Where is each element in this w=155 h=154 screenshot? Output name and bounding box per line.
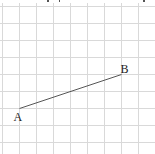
point-label-a: A (14, 110, 23, 124)
point-label-b: B (121, 62, 129, 76)
grid (0, 3, 155, 154)
text-fragment (47, 0, 49, 2)
grid-diagram: A B (0, 0, 155, 154)
text-fragment (59, 0, 60, 2)
text-fragment (143, 0, 145, 2)
cropped-text-fragments (47, 0, 145, 2)
